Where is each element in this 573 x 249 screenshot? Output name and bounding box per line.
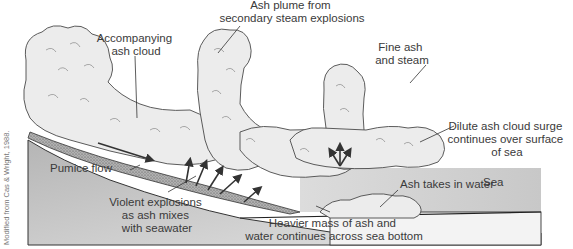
label-fine-ash: Fine ash and steam (375, 41, 429, 66)
label-ash-takes-in-water: Ash takes in water (400, 178, 494, 190)
label-sea: Sea (483, 176, 504, 188)
label-dilute-surge: Dilute ash cloud surge continues over su… (448, 120, 567, 158)
source-credit: Modified from Cas & Wright, 1988. (2, 131, 11, 246)
dilute-ash-surge (290, 126, 445, 168)
label-violent-explosions: Violent explosions as ash mixes with sea… (109, 196, 205, 234)
label-ash-plume: Ash plume from secondary steam explosion… (219, 0, 364, 24)
label-pumice-flow: Pumice flow (50, 162, 113, 174)
label-heavier-mass: Heavier mass of ash and water continues … (244, 217, 423, 242)
pumice-flow-diagram: Accompanying ash cloud Ash plume from se… (0, 0, 573, 249)
